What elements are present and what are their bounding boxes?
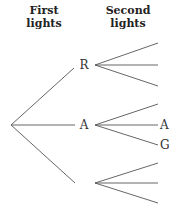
header-first-line2: lights (22, 17, 66, 30)
first-branch-2 (11, 125, 75, 183)
header-second-line1: Second (98, 4, 158, 17)
second-branch-2-2 (95, 183, 158, 203)
second-branch-0-0 (95, 43, 158, 65)
first-branch-0 (11, 68, 74, 125)
header-second-lights: Second lights (98, 4, 158, 30)
second-branch-2-0 (95, 163, 158, 183)
second-node-label-1-1: A (159, 118, 169, 132)
second-branch-1-0 (95, 104, 158, 125)
tree-diagram: First lights Second lights RAAG (0, 0, 179, 213)
header-second-line2: lights (98, 17, 158, 30)
first-node-label-0: R (79, 58, 89, 72)
second-branch-1-2 (95, 125, 158, 145)
first-node-label-1: A (79, 118, 89, 132)
second-node-label-1-2: G (160, 138, 170, 152)
second-branch-0-2 (95, 65, 158, 86)
header-first-line1: First (22, 4, 66, 17)
header-first-lights: First lights (22, 4, 66, 30)
tree-branches: RAAG (0, 0, 179, 213)
